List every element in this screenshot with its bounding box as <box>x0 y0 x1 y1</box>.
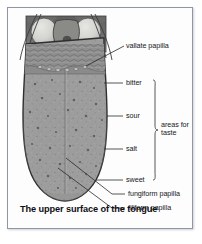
label-areas-for-taste-line2: taste <box>161 129 176 137</box>
label-sour: sour <box>126 112 140 120</box>
areas-for-taste-brace <box>153 80 158 180</box>
label-sweet: sweet <box>126 176 145 184</box>
label-bitter: bitter <box>126 79 142 87</box>
label-vallate-papilla: vallate papilla <box>126 42 169 50</box>
diagram-stage: vallate papilla bitter sour salt sweet a… <box>8 8 192 228</box>
label-fungiform-papilla: fungiform papilla <box>128 190 180 198</box>
figure-panel: vallate papilla bitter sour salt sweet a… <box>7 7 193 229</box>
figure-caption: The upper surface of the tongue <box>20 204 157 214</box>
tongue-body <box>18 38 114 204</box>
label-salt: salt <box>126 145 137 153</box>
